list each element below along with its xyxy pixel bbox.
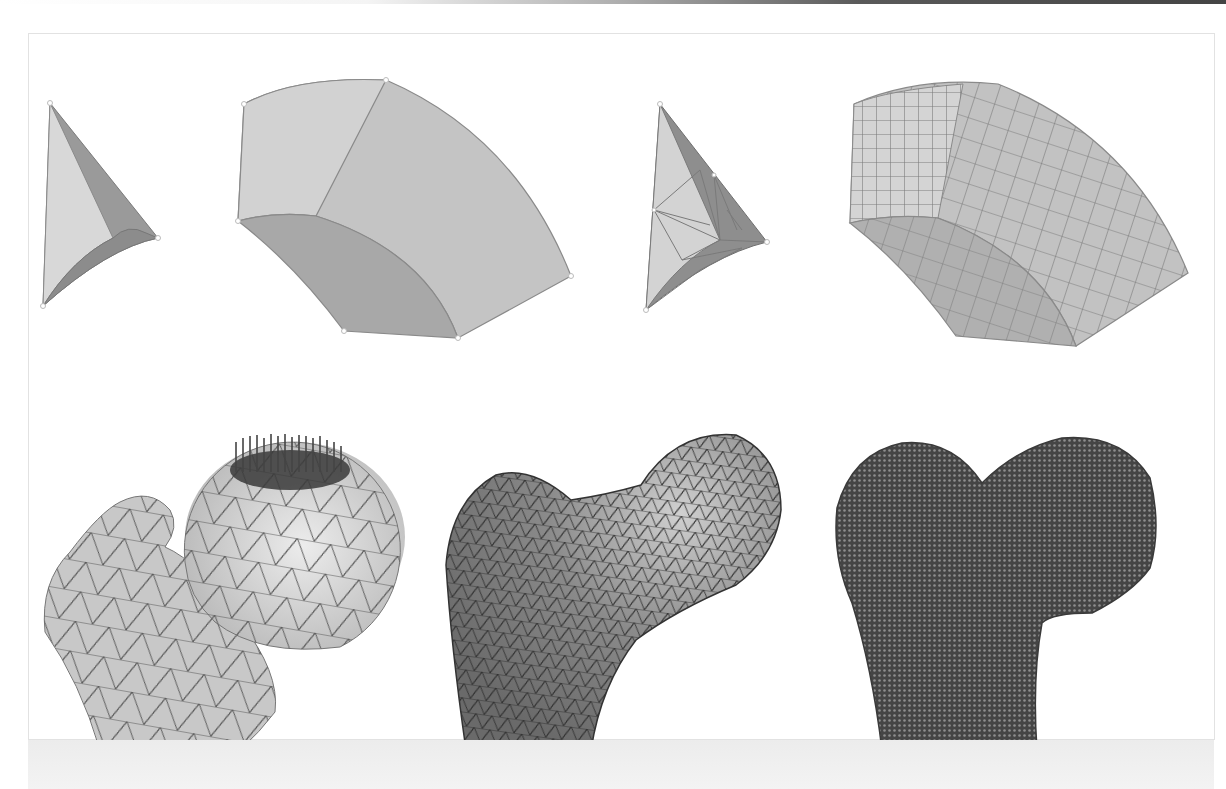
panel-hexahedron-meshed — [848, 78, 1193, 353]
panel-femur-coarse-tet-mesh-with-load — [40, 432, 385, 750]
panel-femur-voxel-hex-mesh — [832, 428, 1167, 750]
hexahedron-geometry-image — [236, 76, 576, 346]
tetrahedron-geometry-image — [38, 98, 163, 313]
panel-femur-fine-tet-mesh — [436, 425, 786, 750]
femur-coarse-tet-mesh-image — [40, 432, 385, 750]
femur-fine-tet-mesh-image — [436, 425, 786, 750]
panel-hexahedron-geometry — [236, 76, 576, 346]
top-rule — [0, 0, 1226, 4]
panel-tetrahedron-meshed — [642, 100, 772, 315]
tetrahedron-meshed-image — [642, 100, 772, 315]
bottom-band — [28, 740, 1214, 789]
hexahedron-meshed-image — [848, 78, 1193, 353]
femur-voxel-mesh-image — [832, 428, 1167, 750]
panel-tetrahedron-geometry — [38, 98, 163, 313]
